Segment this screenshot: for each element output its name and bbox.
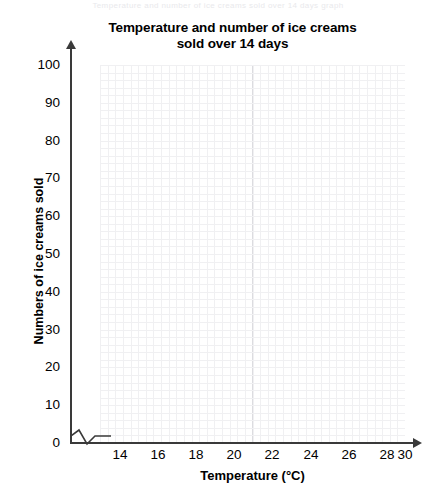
x-tick-label-20: 20 [214, 448, 254, 462]
x-axis-line [71, 442, 416, 444]
x-tick-label-24: 24 [291, 448, 331, 462]
chart-title-line-2: sold over 14 days [60, 36, 405, 52]
x-tick-label-22: 22 [252, 448, 292, 462]
chart-title: Temperature and number of ice creams sol… [60, 20, 405, 52]
y-tick-label-90: 90 [14, 96, 60, 110]
y-tick-label-100: 100 [14, 58, 60, 72]
x-tick-label-18: 18 [176, 448, 216, 462]
chart-title-line-1: Temperature and number of ice creams [60, 20, 405, 36]
plot-area-grid [100, 65, 405, 443]
y-tick-label-0: 0 [14, 436, 60, 450]
x-axis-scale-break-icon [68, 427, 114, 447]
x-tick-label-30: 30 [385, 448, 425, 462]
y-axis-line [70, 48, 72, 444]
y-axis-arrow-icon [66, 40, 76, 49]
x-axis-arrow-icon [413, 438, 422, 448]
y-tick-label-10: 10 [14, 398, 60, 412]
x-tick-label-14: 14 [100, 448, 140, 462]
top-cropped-text: Temperature and number of ice creams sol… [0, 0, 436, 12]
x-tick-label-16: 16 [138, 448, 178, 462]
y-axis-title: Numbers of ice creams sold [32, 136, 46, 386]
x-tick-label-26: 26 [329, 448, 369, 462]
x-axis-title: Temperature (°C) [100, 468, 405, 483]
